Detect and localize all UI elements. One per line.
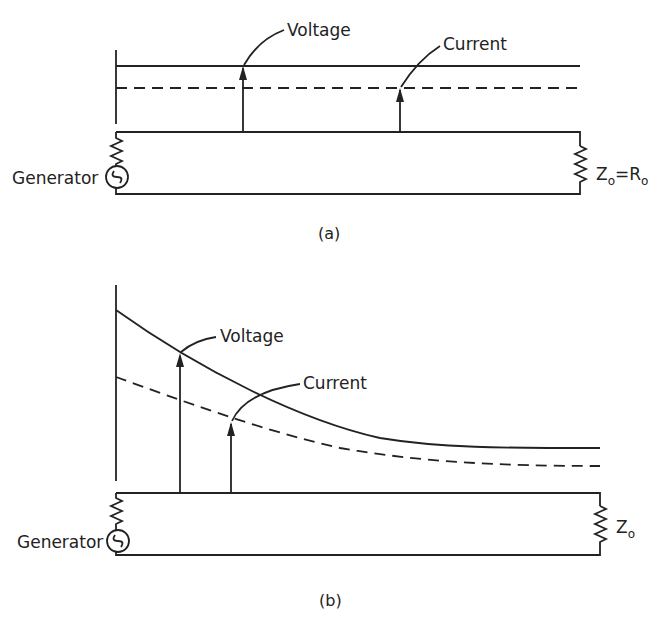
load-label-a: Zo=Ro	[596, 164, 648, 188]
load-resistor-b	[595, 506, 606, 546]
current-label-b: Current	[303, 373, 367, 393]
voltage-leader-a	[244, 30, 284, 65]
caption-b: (b)	[319, 591, 342, 610]
load-resistor-a	[575, 146, 586, 186]
source-resistor-a	[111, 132, 122, 166]
transmission-line-a	[116, 132, 580, 194]
current-leader-b	[232, 384, 300, 421]
caption-a: (a)	[318, 224, 340, 243]
voltage-arrowhead-b	[176, 353, 184, 367]
source-resistor-b	[111, 493, 122, 530]
voltage-label-a: Voltage	[287, 20, 351, 40]
current-label-a: Current	[443, 34, 507, 54]
current-arrowhead-b	[227, 422, 235, 436]
current-arrowhead-a	[396, 88, 404, 102]
voltage-leader-b	[181, 337, 216, 352]
voltage-arrowhead-a	[239, 66, 247, 80]
voltage-label-b: Voltage	[220, 326, 284, 346]
transmission-line-b	[116, 493, 600, 555]
generator-label-a: Generator	[12, 168, 98, 188]
panel-a: Voltage Current Generator Zo=Ro (a)	[12, 20, 648, 243]
sine-icon-b	[114, 535, 123, 547]
panel-b: Voltage Current Generator Zo (b)	[17, 285, 635, 610]
load-label-b: Zo	[616, 517, 635, 541]
transmission-line-diagram: Voltage Current Generator Zo=Ro (a) Volt…	[0, 0, 662, 620]
sine-icon-a	[113, 171, 122, 183]
generator-label-b: Generator	[17, 532, 103, 552]
